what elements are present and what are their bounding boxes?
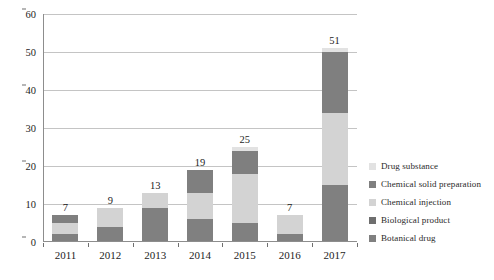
x-axis-tick-mark <box>267 243 268 247</box>
y-axis-tick-label: 40 <box>26 85 37 96</box>
legend-item-label: Chemical injection <box>381 197 451 207</box>
x-axis-tick-label: 2015 <box>234 249 256 261</box>
x-axis-tick-mark <box>312 243 313 247</box>
x-axis-tick-mark <box>222 243 223 247</box>
y-axis-tick-label: 30 <box>26 123 37 134</box>
legend-swatch-icon <box>369 181 376 188</box>
y-axis-tick-mark <box>22 237 26 238</box>
y-axis-tick-label: 0 <box>31 237 36 248</box>
y-axis-tick-label: 50 <box>26 47 37 58</box>
y-axis-tick-mark <box>22 9 26 10</box>
x-axis-tick-mark <box>178 243 179 247</box>
x-axis-tick-label: 2017 <box>324 249 346 261</box>
x-axis-tick-label: 2013 <box>144 249 166 261</box>
legend-item[interactable]: Chemical solid preparation <box>369 175 493 193</box>
y-axis-tick-mark <box>22 161 26 162</box>
legend-item-label: Chemical solid preparation <box>381 179 481 189</box>
x-axis-tick-mark <box>88 243 89 247</box>
chart-legend: Drug substanceChemical solid preparation… <box>369 157 493 247</box>
legend-item-label: Biological product <box>381 215 450 225</box>
chart-container: 0102030405060 79131925751 20112012201320… <box>0 0 494 280</box>
x-axis-tick-mark <box>357 243 358 247</box>
legend-item[interactable]: Botanical drug <box>369 229 493 247</box>
legend-swatch-icon <box>369 163 376 170</box>
x-axis-tick-label: 2011 <box>55 249 77 261</box>
y-axis-tick-label: 20 <box>26 161 37 172</box>
x-axis-tick-label: 2012 <box>99 249 121 261</box>
y-axis-tick-label: 60 <box>26 9 37 20</box>
legend-item[interactable]: Biological product <box>369 211 493 229</box>
x-axis: 2011201220132014201520162017 <box>43 243 357 267</box>
legend-swatch-icon <box>369 217 376 224</box>
legend-item-label: Botanical drug <box>381 233 436 243</box>
legend-item[interactable]: Chemical injection <box>369 193 493 211</box>
legend-swatch-icon <box>369 235 376 242</box>
x-axis-tick-mark <box>133 243 134 247</box>
plot-area: 79131925751 <box>43 14 357 242</box>
x-axis-tick-label: 2016 <box>279 249 301 261</box>
y-axis-tick-label: 10 <box>26 199 37 210</box>
x-axis-tick-mark <box>43 243 44 247</box>
y-axis-tick-mark <box>22 85 26 86</box>
y-axis: 0102030405060 <box>0 14 36 242</box>
legend-swatch-icon <box>369 199 376 206</box>
legend-item-label: Drug substance <box>381 161 438 171</box>
legend-item[interactable]: Drug substance <box>369 157 493 175</box>
plot-frame <box>43 14 357 242</box>
x-axis-tick-label: 2014 <box>189 249 211 261</box>
